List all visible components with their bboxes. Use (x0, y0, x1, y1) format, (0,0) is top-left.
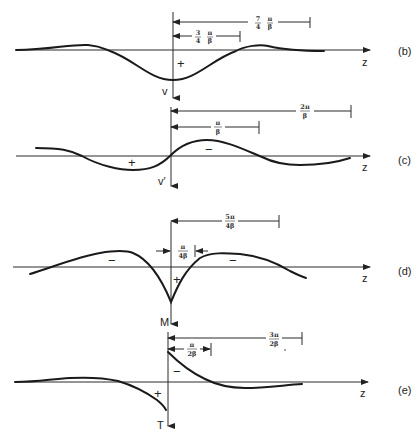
dimension-label-pi-num: π (216, 119, 221, 127)
z-axis-label: z (362, 272, 368, 284)
panel-d-moment: 5π 4β π 4β − + − M z (d) (13, 213, 411, 328)
dimension-label-3pi-num: 3π (269, 331, 279, 339)
sign-negative: − (108, 253, 116, 268)
dimension-label-3-4-den: 4 (196, 37, 201, 45)
dimension-label-5pi-num: 5π (225, 213, 235, 221)
panel-label-b: (b) (398, 45, 411, 57)
dimension-label-pi-2b-den: 2β (188, 350, 197, 358)
beam-on-elastic-foundation-diagram: 7 4 π β 3 4 π β + v z (b) 2π β π β (0, 0, 420, 441)
sign-positive: + (177, 56, 185, 71)
z-axis-label: z (362, 56, 368, 68)
z-axis-label: z (360, 387, 366, 399)
beta-symbol: β (268, 23, 272, 31)
sign-positive: + (128, 155, 136, 170)
panel-c-slope: 2π β π β + − v′ z (c) (16, 103, 411, 187)
sign-positive: + (154, 386, 162, 401)
dimension-label-5pi-den: 4β (226, 222, 235, 230)
dimension-label-3-4-num: 3 (196, 29, 201, 37)
dimension-label-7-4-den: 4 (256, 23, 261, 31)
z-axis-label: z (362, 161, 368, 173)
vertical-axis-label: T (157, 419, 164, 431)
dimension-label-2pi-den: β (303, 112, 307, 120)
panel-label-d: (d) (398, 265, 411, 277)
dimension-label-7-4-num: 7 (256, 15, 261, 23)
beta-symbol: β (208, 37, 212, 45)
sign-negative: − (229, 253, 237, 268)
panel-label-c: (c) (398, 154, 411, 166)
pi-symbol: π (268, 15, 273, 23)
dimension-label-pi-4b-den: 4β (179, 252, 188, 260)
panel-e-shear: 3π 2β π 2β − + T z (e) (15, 331, 411, 431)
vertical-axis-label: M (160, 316, 169, 328)
panel-b-deflection: 7 4 π β 3 4 π β + v z (b) (16, 12, 411, 98)
dimension-label-pi-den: β (216, 128, 220, 136)
pi-symbol: π (208, 29, 213, 37)
sign-negative: − (173, 364, 181, 379)
dimension-label-3pi-den: 2β (270, 340, 279, 348)
stray-mark (284, 349, 286, 351)
dimension-label-pi-4b-num: π (181, 243, 186, 251)
dimension-label-2pi-num: 2π (300, 103, 310, 111)
panel-label-e: (e) (398, 384, 411, 396)
vertical-axis-label: v (162, 85, 168, 97)
label-bg (248, 15, 278, 29)
moment-curve (30, 251, 306, 302)
sign-positive: + (173, 272, 181, 287)
vertical-axis-label: v′ (158, 175, 166, 187)
sign-negative: − (205, 142, 213, 157)
slope-curve (36, 140, 350, 170)
dimension-label-pi-2b-num: π (190, 341, 195, 349)
